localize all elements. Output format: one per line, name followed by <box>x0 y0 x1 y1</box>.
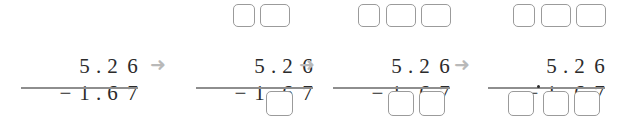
borrow-box[interactable] <box>541 4 571 27</box>
answer-box[interactable] <box>388 91 414 116</box>
borrow-box[interactable] <box>260 4 290 27</box>
answer-box[interactable] <box>543 91 569 116</box>
borrow-box[interactable] <box>513 4 535 27</box>
next-step-arrow-2: ➜ <box>299 55 315 74</box>
answer-box-row-4 <box>508 91 600 117</box>
subtrahend-row-1: −1.67 <box>22 62 146 119</box>
answer-rule-1 <box>21 87 138 89</box>
step-panel-4: 5.26 −1.67 <box>485 0 615 119</box>
borrow-box[interactable] <box>386 4 416 27</box>
borrow-box-row-3 <box>358 4 451 28</box>
borrow-box[interactable] <box>233 4 255 27</box>
answer-rule-3 <box>333 87 450 89</box>
step-panel-3: 5.26 −1.67 <box>330 0 455 119</box>
answer-rule-2 <box>196 87 313 89</box>
step-panel-2: 5.26 −1.67 <box>175 0 295 119</box>
borrow-box[interactable] <box>358 4 380 27</box>
answer-box-row-2 <box>266 91 293 117</box>
answer-box[interactable] <box>419 91 445 116</box>
borrow-box-row-2 <box>233 4 290 28</box>
borrow-box[interactable] <box>421 4 451 27</box>
next-step-arrow-3: ➜ <box>454 55 470 74</box>
answer-rule-4 <box>488 87 605 89</box>
subtraction-steps-worksheet: 5.26 −1.67 ➜ 5.26 −1.67 ➜ <box>0 0 621 119</box>
next-step-arrow-1: ➜ <box>150 55 166 74</box>
answer-box[interactable] <box>574 91 600 116</box>
answer-box[interactable] <box>508 91 534 116</box>
borrow-box-row-4 <box>513 4 606 28</box>
borrow-box[interactable] <box>576 4 606 27</box>
answer-box-row-3 <box>388 91 445 117</box>
answer-box[interactable] <box>266 91 293 116</box>
step-panel-1: 5.26 −1.67 <box>0 0 150 119</box>
